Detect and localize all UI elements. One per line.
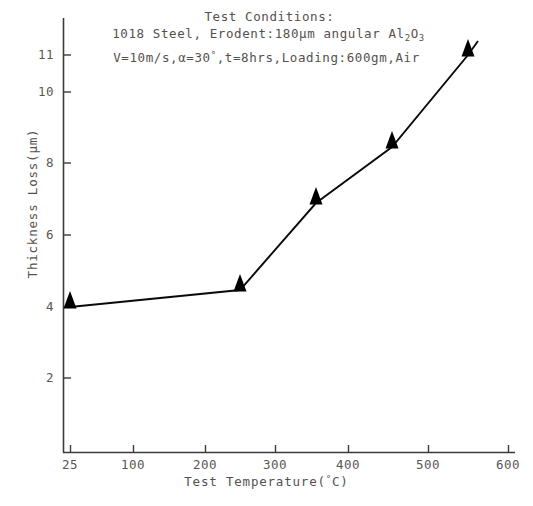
x-tick-label-400: 400 (325, 457, 371, 472)
data-line (70, 41, 478, 307)
data-markers (64, 39, 475, 309)
x-axis-title: Test Temperature(°C) (0, 474, 533, 489)
x-tick-label-100: 100 (110, 457, 156, 472)
y-axis-title-pre: Thickness Loss( (25, 154, 40, 279)
y-tick-label-10: 10 (28, 84, 54, 99)
y-axis-micro-symbol: μ (25, 145, 40, 153)
y-axis-title: Thickness Loss(μm) (25, 104, 40, 304)
x-axis-ticks (71, 445, 509, 453)
data-point-25-4.0 (64, 291, 77, 309)
x-tick-label-300: 300 (252, 457, 298, 472)
x-tick-label-600: 600 (485, 457, 531, 472)
x-tick-label-200: 200 (182, 457, 228, 472)
y-tick-label-11: 11 (28, 47, 54, 62)
y-tick-label-2: 2 (28, 370, 54, 385)
plot-canvas (0, 0, 533, 506)
x-axis-title-post: C) (332, 474, 349, 489)
y-axis-title-post: m) (25, 129, 40, 146)
data-point-450-8.4 (386, 131, 399, 149)
data-point-350-7.0 (310, 187, 323, 205)
y-axis-title-wrapper: Thickness Loss(μm) (25, 104, 40, 304)
x-tick-label-500: 500 (405, 457, 451, 472)
data-point-250-4.5 (234, 274, 247, 292)
x-axis-title-pre: Test Temperature( (184, 474, 326, 489)
x-tick-label-25: 25 (47, 457, 93, 472)
chart-figure: Test Conditions: 1018 Steel, Erodent:180… (0, 0, 533, 506)
y-axis-ticks (64, 55, 72, 378)
